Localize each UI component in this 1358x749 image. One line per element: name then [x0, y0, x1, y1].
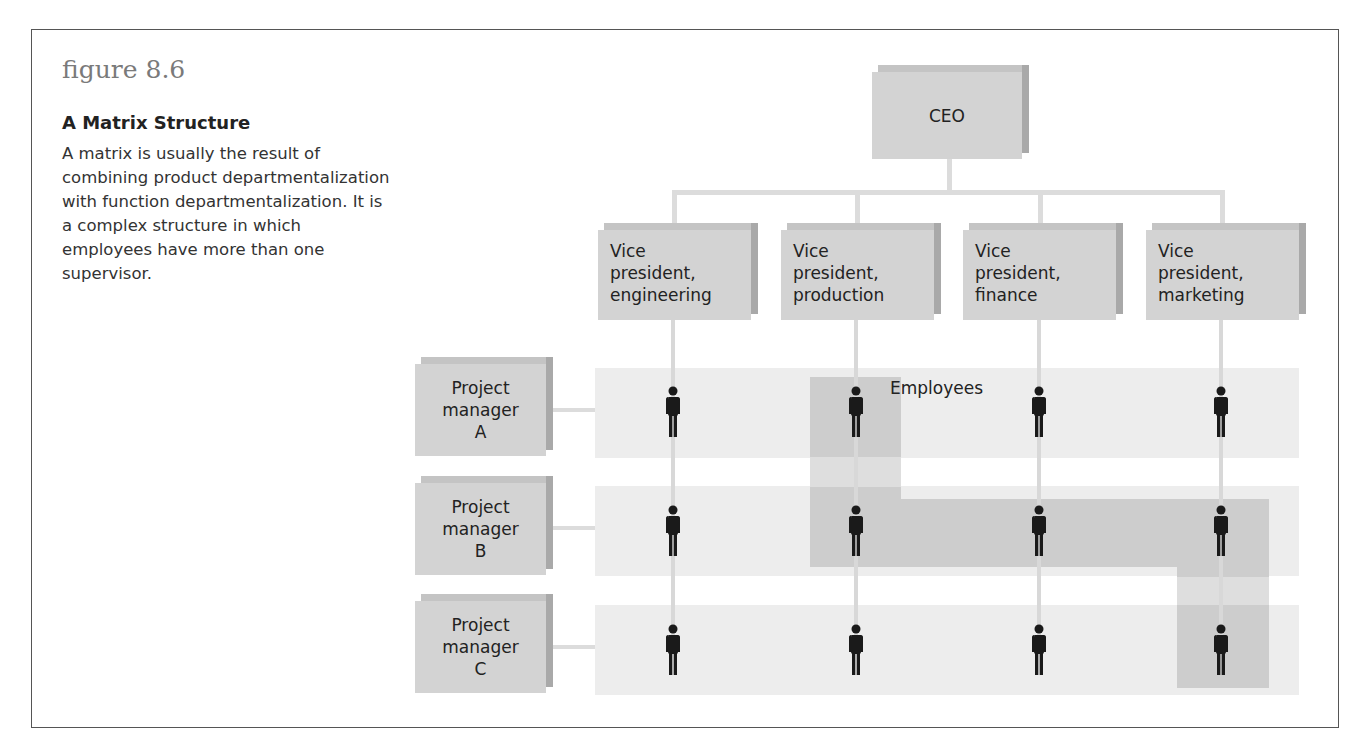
- vp-production-box: Vice president, production: [781, 230, 934, 320]
- person-icon: [1031, 505, 1047, 557]
- figure-caption: A matrix is usually the result of combin…: [62, 142, 392, 286]
- vp-label-line3: marketing: [1158, 284, 1287, 306]
- pm-label-line2: manager: [442, 636, 518, 658]
- employees-label: Employees: [890, 378, 983, 398]
- person-icon: [665, 505, 681, 557]
- vp-horizontal-connector: [672, 190, 1222, 195]
- employee-highlight-b-end: [1177, 567, 1269, 577]
- vp-label-line3: production: [793, 284, 922, 306]
- person-icon: [1213, 505, 1229, 557]
- person-icon: [1213, 386, 1229, 438]
- employee-highlight-link-bc: [1177, 577, 1269, 605]
- person-icon: [665, 624, 681, 676]
- vp-label-line1: Vice: [610, 240, 739, 262]
- ceo-label: CEO: [929, 105, 965, 127]
- person-icon: [848, 505, 864, 557]
- vp-label-line2: president,: [793, 262, 922, 284]
- vp-engineering-box: Vice president, engineering: [598, 230, 751, 320]
- marketing-column-line: [1219, 318, 1223, 653]
- finance-column-line: [1037, 318, 1041, 653]
- pm-label-line1: Project: [451, 496, 509, 518]
- vp-label-line2: president,: [975, 262, 1104, 284]
- pm-label-line1: Project: [451, 377, 509, 399]
- engineering-column-line: [671, 318, 675, 653]
- vp-label-line1: Vice: [1158, 240, 1287, 262]
- ceo-connector: [947, 158, 952, 194]
- pm-label-line2: manager: [442, 399, 518, 421]
- figure-number: figure 8.6: [62, 55, 185, 84]
- person-icon: [1031, 624, 1047, 676]
- pm-label-line1: Project: [451, 614, 509, 636]
- pm-a-connector: [547, 408, 595, 412]
- vp-label-line2: president,: [610, 262, 739, 284]
- pm-b-box: Project manager B: [415, 483, 546, 575]
- pm-label-line3: A: [475, 421, 487, 443]
- person-icon: [848, 386, 864, 438]
- vp-label-line1: Vice: [975, 240, 1104, 262]
- person-icon: [1213, 624, 1229, 676]
- production-column-line: [854, 318, 858, 653]
- pm-label-line3: C: [475, 658, 487, 680]
- pm-a-box: Project manager A: [415, 364, 546, 456]
- vp-label-line3: engineering: [610, 284, 739, 306]
- pm-label-line2: manager: [442, 518, 518, 540]
- vp-label-line3: finance: [975, 284, 1104, 306]
- person-icon: [848, 624, 864, 676]
- pm-c-connector: [547, 645, 595, 649]
- vp-label-line2: president,: [1158, 262, 1287, 284]
- ceo-box: CEO: [872, 72, 1022, 159]
- person-icon: [1031, 386, 1047, 438]
- vp-marketing-box: Vice president, marketing: [1146, 230, 1299, 320]
- pm-c-box: Project manager C: [415, 601, 546, 693]
- vp-finance-box: Vice president, finance: [963, 230, 1116, 320]
- person-icon: [665, 386, 681, 438]
- pm-b-connector: [547, 526, 595, 530]
- figure-title: A Matrix Structure: [62, 112, 250, 133]
- vp-label-line1: Vice: [793, 240, 922, 262]
- pm-label-line3: B: [475, 540, 487, 562]
